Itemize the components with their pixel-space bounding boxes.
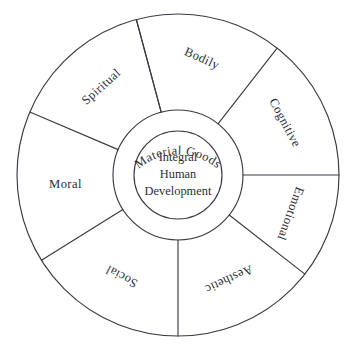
- core-line-3: Development: [145, 184, 212, 198]
- sector-label-social: Social: [103, 262, 140, 290]
- integral-human-development-diagram: BodilyCognitiveEmotionalAestheticSocialM…: [0, 0, 358, 354]
- sector-label-bodily: Bodily: [182, 44, 221, 72]
- sector-label-emotional: Emotional: [274, 185, 306, 243]
- sector-label-moral: Moral: [49, 177, 82, 191]
- core-line-1: Integral: [159, 150, 198, 164]
- sector-label-aesthetic: Aesthetic: [203, 262, 255, 296]
- core-line-2: Human: [160, 167, 196, 181]
- sector-divider-7: [136, 19, 161, 112]
- wheel-canvas: BodilyCognitiveEmotionalAestheticSocialM…: [0, 0, 358, 354]
- sector-divider-6: [30, 112, 118, 150]
- sector-divider-1: [218, 48, 277, 124]
- sector-label-spiritual: Spiritual: [79, 66, 123, 108]
- sector-label-cognitive: Cognitive: [266, 96, 303, 150]
- sector-divider-5: [41, 209, 122, 260]
